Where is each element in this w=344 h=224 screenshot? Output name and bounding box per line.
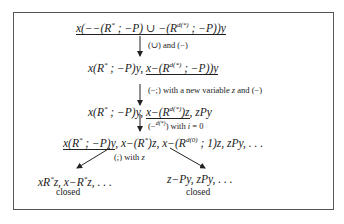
rule-label-4-text: (;) with [114, 152, 141, 162]
rule-label-2-text: (−;) with a new variable [148, 85, 232, 95]
node-6-formula: z−Py, zPy, . . . [167, 172, 233, 186]
rule-label-1: (∪) and (−) [148, 40, 188, 50]
node-1-formula: x(−−(R* ; −P) ∪ −(Rd(*) ; −P))y [76, 18, 226, 35]
node-2-formula: x(R* ; −P)y, x−(Rd(*) ; −P))y [88, 58, 218, 75]
rule-label-2-suffix: and (−) [235, 85, 262, 95]
node-6-status: closed [186, 187, 210, 197]
rule-label-4-var: z [141, 152, 144, 162]
node-4-formula: x(R* ; −P)y, x−(R*)z, x−(Rd(0) ; 1)z, zP… [63, 133, 263, 150]
rule-label-3-sup: d(*) [156, 120, 166, 126]
node-5-status: closed [56, 187, 80, 197]
rule-label-3-text: (− [148, 121, 156, 131]
rule-label-4: (;) with z [114, 152, 145, 162]
rule-label-3-eq: = 0 [190, 121, 203, 131]
rule-label-3-mid: ) with [166, 121, 188, 131]
rule-label-2: (−;) with a new variable z and (−) [148, 85, 262, 95]
node-3-formula: x(R* ; −P)y, x−(Rd(*))z, zPy [88, 102, 212, 119]
rule-label-3: (−d(*)) with i = 0 [148, 118, 204, 131]
